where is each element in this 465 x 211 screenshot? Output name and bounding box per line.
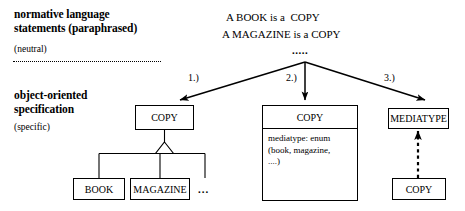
arrow-label-2: 2.)	[286, 72, 297, 83]
oo-specification-label: object-oriented specification	[14, 89, 87, 116]
statement-continuation: .....	[292, 44, 308, 56]
oo-label-line1: object-oriented	[14, 89, 87, 103]
statement-line-1: A BOOK is a COPY	[226, 10, 320, 24]
class-box-book[interactable]: BOOK	[73, 178, 125, 200]
class-box-copy-option1[interactable]: COPY	[135, 105, 194, 130]
class-box-magazine[interactable]: MAGAZINE	[130, 178, 190, 200]
class-box-mediatype[interactable]: MEDIATYPE	[388, 108, 449, 129]
specific-label: (specific)	[14, 122, 50, 133]
arrow-to-option3	[305, 62, 425, 100]
class-box-copy-option2-header[interactable]: COPY	[262, 105, 358, 129]
normative-label-line1: normative language	[14, 8, 137, 22]
more-subclasses-ellipsis: ...	[198, 183, 209, 195]
normative-statements-label: normative language statements (paraphras…	[14, 8, 137, 35]
class-box-copy-option2-attributes: mediatype: enum (book, magazine, ....)	[262, 129, 358, 201]
statement-line-2: A MAGAZINE is a COPY	[222, 27, 341, 41]
class-box-copy-option3[interactable]: COPY	[392, 178, 446, 200]
oo-label-line2: specification	[14, 103, 87, 117]
normative-label-line2: statements (paraphrased)	[14, 22, 137, 36]
arrow-label-3: 3.)	[384, 72, 395, 83]
diagram-canvas: normative language statements (paraphras…	[0, 0, 465, 211]
generalization-triangle	[156, 142, 174, 154]
arrow-label-1: 1.)	[188, 72, 199, 83]
section-divider	[13, 61, 161, 62]
neutral-label: (neutral)	[14, 44, 47, 55]
